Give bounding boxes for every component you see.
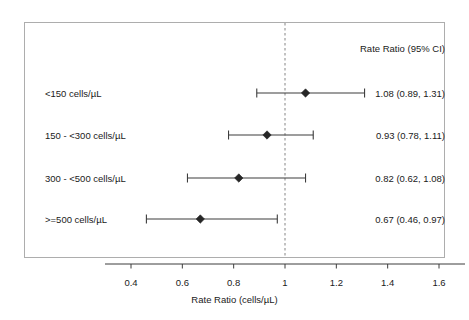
row-label-2: 300 - <500 cells/µL	[45, 174, 126, 184]
row-label-0: <150 cells/µL	[45, 89, 101, 99]
row-estimate-3: 0.67 (0.46, 0.97)	[375, 215, 445, 225]
x-tick-label-5: 1.4	[381, 278, 394, 288]
x-tick-label-4: 1.2	[330, 278, 343, 288]
x-tick-label-0: 0.4	[124, 278, 137, 288]
x-tick-label-6: 1.6	[432, 278, 445, 288]
x-axis-title: Rate Ratio (cells/µL)	[0, 295, 469, 305]
row-estimate-2: 0.82 (0.62, 1.08)	[375, 174, 445, 184]
x-tick-label-1: 0.6	[176, 278, 189, 288]
x-tick-label-2: 0.8	[227, 278, 240, 288]
forest-plot-figure: Rate Ratio (95% CI) <150 cells/µL 1.08 (…	[0, 0, 469, 320]
row-estimate-1: 0.93 (0.78, 1.11)	[376, 131, 445, 141]
row-label-3: >=500 cells/µL	[45, 215, 107, 225]
x-tick-label-3: 1	[282, 278, 287, 288]
row-estimate-0: 1.08 (0.89, 1.31)	[375, 89, 445, 99]
estimate-column-header: Rate Ratio (95% CI)	[360, 44, 445, 54]
row-label-1: 150 - <300 cells/µL	[45, 131, 126, 141]
